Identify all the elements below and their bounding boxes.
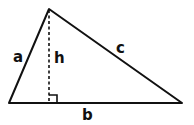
height-h-label: h	[54, 49, 65, 67]
side-a-label: a	[13, 48, 23, 66]
side-b-label: b	[82, 106, 93, 124]
right-angle-marker	[49, 95, 57, 103]
side-c-label: c	[116, 39, 125, 57]
triangle-outline	[9, 9, 182, 103]
triangle-diagram: a h c b	[0, 0, 194, 125]
